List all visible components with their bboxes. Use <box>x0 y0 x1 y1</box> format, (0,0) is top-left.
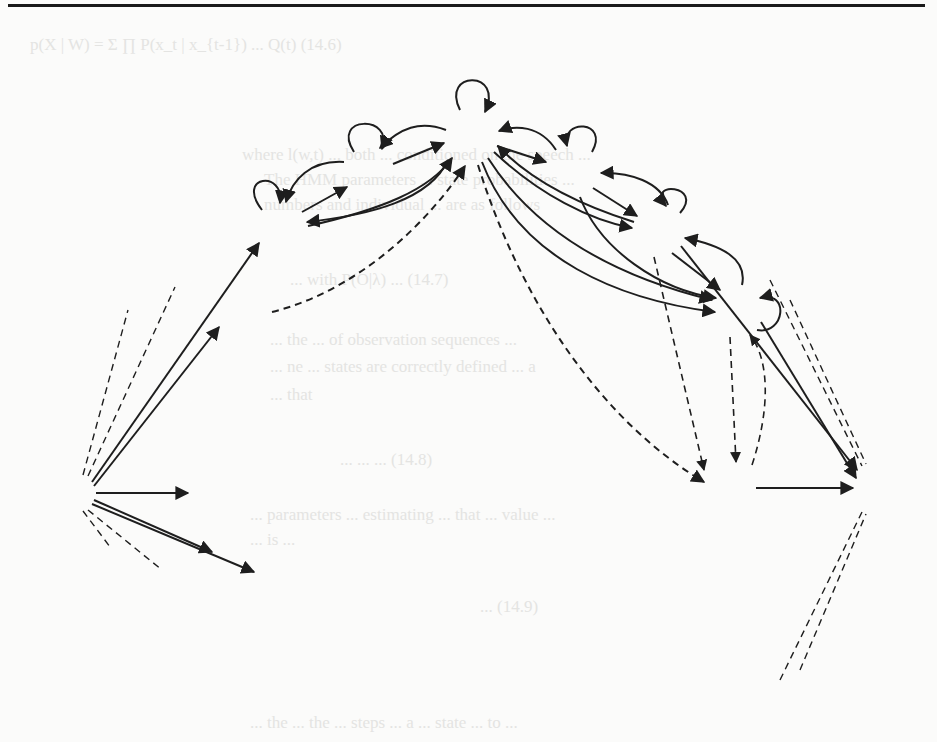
svg-text:... with P(O|λ) ... (14.7): ... with P(O|λ) ... (14.7) <box>290 270 449 289</box>
svg-text:... that: ... that <box>270 385 313 404</box>
svg-text:... parameters ... estimating: ... parameters ... estimating ... that .… <box>250 505 555 524</box>
figure-page: p(X | W) = Σ ∏ P(x_t | x_{t-1}) ... Q(t)… <box>0 0 937 742</box>
svg-text:... ne ... states are correctl: ... ne ... states are correctly defined … <box>270 357 536 376</box>
edges-into-final <box>708 488 853 514</box>
svg-text:p(X | W) = Σ ∏ P(x_t | x_{t-1}: p(X | W) = Σ ∏ P(x_t | x_{t-1}) ... Q(t)… <box>30 35 342 54</box>
svg-text:... ... ... (14.8): ... ... ... (14.8) <box>340 450 432 469</box>
bleed-through-text: p(X | W) = Σ ∏ P(x_t | x_{t-1}) ... Q(t)… <box>30 35 591 732</box>
svg-text:... the ... of observation seq: ... the ... of observation sequences ... <box>270 330 517 349</box>
svg-text:... is ...: ... is ... <box>250 530 295 549</box>
svg-text:... the ... the ... steps ...: ... the ... the ... steps ... a ... stat… <box>250 713 518 732</box>
hmm-state-diagram: p(X | W) = Σ ∏ P(x_t | x_{t-1}) ... Q(t)… <box>0 0 937 742</box>
edges-from-initial <box>78 243 259 572</box>
svg-text:... (14.9): ... (14.9) <box>480 597 538 616</box>
dashed-transitions <box>272 165 866 680</box>
